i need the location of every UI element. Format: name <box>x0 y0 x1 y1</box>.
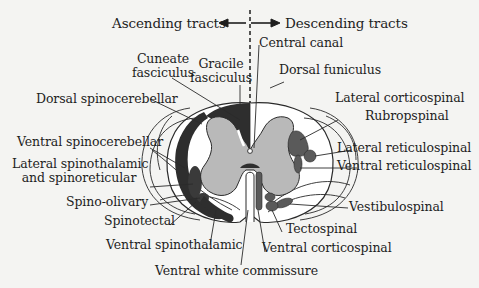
label-lateral-spinothalamic: Lateral spinothalamic and spinoreticular <box>12 157 146 185</box>
label-cuneate-line2: fasciculus <box>130 66 196 80</box>
label-rubrospinal: Rubropspinal <box>365 109 449 123</box>
lateral-reticulospinal-tract <box>294 155 302 173</box>
label-gracile-line2: fasciculus <box>188 71 254 85</box>
central-canal <box>248 149 253 154</box>
label-cuneate-fasciculus: Cuneate fasciculus <box>130 52 196 80</box>
label-lateral-spinothalamic-line2: and spinoreticular <box>12 171 146 185</box>
label-ventral-white-commissure: Ventral white commissure <box>155 264 318 278</box>
ventral-reticulospinal-tract <box>265 193 275 201</box>
ascending-tracts-heading: Ascending tracts <box>112 16 226 30</box>
label-spino-olivary: Spino-olivary <box>66 195 148 209</box>
lateral-spinothalamic-tract <box>188 166 202 198</box>
label-gracile-line1: Gracile <box>188 57 254 71</box>
label-dorsal-spinocerebellar: Dorsal spinocerebellar <box>36 92 178 106</box>
label-dorsal-funiculus: Dorsal funiculus <box>279 63 381 77</box>
label-vestibulospinal: Vestibulospinal <box>349 200 444 214</box>
label-spinotectal: Spinotectal <box>104 214 175 228</box>
rubrospinal-tract <box>304 150 316 162</box>
label-ventral-corticospinal: Ventral corticospinal <box>262 241 392 255</box>
label-gracile-fasciculus: Gracile fasciculus <box>188 57 254 85</box>
tectospinal-tract <box>266 201 278 211</box>
label-central-canal: Central canal <box>259 36 343 50</box>
ventral-corticospinal-tract <box>256 172 262 210</box>
label-ventral-reticulospinal: Ventral reticulospinal <box>337 159 471 173</box>
label-ventral-spinocerebellar: Ventral spinocerebellar <box>17 135 163 149</box>
label-ventral-spinothalamic: Ventral spinothalamic <box>106 238 242 252</box>
descending-tracts-heading: Descending tracts <box>285 16 408 30</box>
label-cuneate-line1: Cuneate <box>130 52 196 66</box>
label-tectospinal: Tectospinal <box>286 222 357 236</box>
label-lateral-reticulospinal: Lateral reticulospinal <box>337 141 471 155</box>
label-lateral-corticospinal: Lateral corticospinal <box>335 91 464 105</box>
label-lateral-spinothalamic-line1: Lateral spinothalamic <box>12 157 146 171</box>
